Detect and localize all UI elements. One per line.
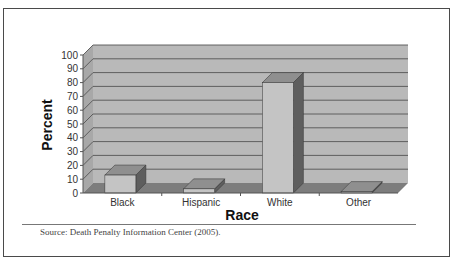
y-tick-label: 40 bbox=[67, 132, 79, 143]
source-divider bbox=[22, 224, 416, 225]
bar-black bbox=[105, 165, 146, 193]
y-tick-label: 60 bbox=[67, 105, 79, 116]
y-tick-label: 50 bbox=[67, 119, 79, 130]
y-tick-label: 0 bbox=[72, 188, 78, 199]
x-axis-title: Race bbox=[225, 207, 259, 223]
x-tick-label: Hispanic bbox=[182, 197, 220, 208]
y-tick-label: 10 bbox=[67, 174, 79, 185]
x-tick-label: Other bbox=[346, 197, 372, 208]
x-tick-label: Black bbox=[110, 197, 135, 208]
x-tick-label: White bbox=[267, 197, 293, 208]
y-tick-label: 100 bbox=[61, 50, 78, 61]
y-tick-label: 90 bbox=[67, 63, 79, 74]
y-axis-title: Percent bbox=[39, 99, 55, 151]
x-axis: BlackHispanicWhiteOther bbox=[83, 193, 398, 208]
y-axis: 0102030405060708090100 bbox=[61, 50, 83, 199]
bar-chart: 0102030405060708090100 BlackHispanicWhit… bbox=[0, 0, 454, 262]
y-tick-label: 80 bbox=[67, 77, 79, 88]
bar-white bbox=[262, 73, 303, 193]
y-tick-label: 20 bbox=[67, 160, 79, 171]
y-tick-label: 70 bbox=[67, 91, 79, 102]
y-tick-label: 30 bbox=[67, 146, 79, 157]
source-note: Source: Death Penalty Information Center… bbox=[40, 227, 220, 237]
